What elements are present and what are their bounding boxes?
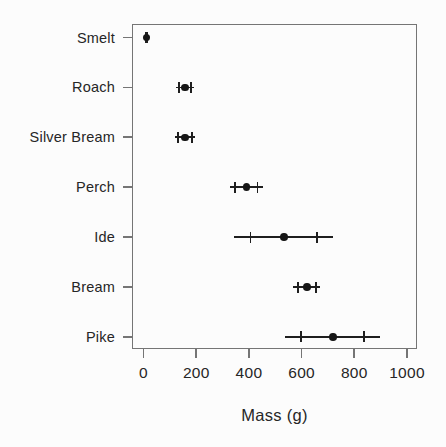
mean-dot-perch (243, 183, 251, 191)
x-tick-label-200: 200 (168, 364, 224, 382)
mean-dot-bream (303, 283, 311, 291)
error-bar-cap-high-roach (190, 82, 192, 93)
error-bar-cap-high-bream (315, 282, 317, 293)
x-tick-label-1000: 1000 (379, 364, 435, 382)
y-tick-smelt (123, 37, 132, 39)
x-tick-label-800: 800 (326, 364, 382, 382)
x-tick-400 (248, 349, 250, 358)
mean-dot-silver-bream (181, 134, 189, 142)
mean-dot-pike (329, 333, 337, 341)
x-tick-200 (195, 349, 197, 358)
y-tick-silver-bream (123, 136, 132, 138)
error-bar-cap-high-ide (316, 232, 318, 243)
fish-mass-chart: Mass (g) SmeltRoachSilver BreamPerchIdeB… (0, 0, 446, 447)
ytick-label-roach: Roach (0, 78, 115, 96)
error-bar-cap-high-pike (363, 331, 365, 342)
ytick-label-bream: Bream (0, 278, 115, 296)
error-bar-cap-low-perch (234, 182, 236, 193)
y-tick-ide (123, 236, 132, 238)
x-tick-label-400: 400 (221, 364, 277, 382)
y-tick-perch (123, 186, 132, 188)
x-tick-600 (301, 349, 303, 358)
error-bar-cap-low-roach (178, 82, 180, 93)
y-tick-bream (123, 286, 132, 288)
y-tick-roach (123, 87, 132, 89)
x-tick-label-0: 0 (116, 364, 172, 382)
ytick-label-perch: Perch (0, 178, 115, 196)
error-bar-cap-low-pike (300, 331, 302, 342)
x-tick-1000 (406, 349, 408, 358)
error-bar-cap-high-perch (257, 182, 259, 193)
x-tick-800 (353, 349, 355, 358)
y-tick-pike (123, 336, 132, 338)
plot-area (132, 24, 417, 350)
x-tick-0 (143, 349, 145, 358)
error-bar-cap-high-silver-bream (191, 132, 193, 143)
error-bar-cap-low-bream (297, 282, 299, 293)
ytick-label-silver-bream: Silver Bream (0, 128, 115, 146)
ytick-label-pike: Pike (0, 328, 115, 346)
mean-dot-roach (181, 84, 189, 92)
x-tick-label-600: 600 (274, 364, 330, 382)
x-axis-title: Mass (g) (165, 405, 385, 425)
ytick-label-smelt: Smelt (0, 29, 115, 47)
error-bar-cap-low-silver-bream (177, 132, 179, 143)
error-bar-cap-low-ide (250, 232, 252, 243)
mean-dot-ide (280, 233, 288, 241)
ytick-label-ide: Ide (0, 228, 115, 246)
